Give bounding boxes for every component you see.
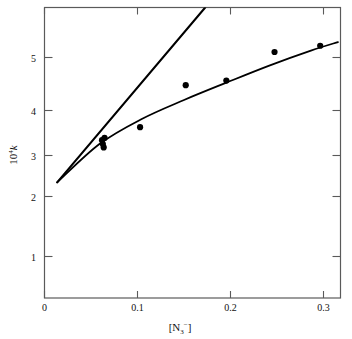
chart-canvas: 0 0.1 0.2 0.3 1 2 3 4 5 104k [N3−]	[0, 0, 352, 339]
data-point	[101, 135, 107, 141]
data-point	[101, 144, 107, 150]
y-axis-title-base: 10	[7, 153, 19, 165]
figure-container: 0 0.1 0.2 0.3 1 2 3 4 5 104k [N3−]	[0, 0, 352, 339]
x-tick-label: 0	[42, 302, 47, 313]
data-point	[271, 49, 277, 55]
y-tick-label: 5	[31, 53, 36, 64]
data-point	[223, 77, 229, 83]
chart-background	[0, 0, 352, 339]
y-tick-label: 4	[31, 106, 36, 117]
data-point	[317, 43, 323, 49]
y-tick-label: 2	[31, 192, 36, 203]
y-tick-label: 3	[31, 151, 36, 162]
x-axis-title-open: [N	[169, 321, 181, 333]
data-point	[137, 124, 143, 130]
x-axis-title-subscript: 3	[180, 328, 184, 336]
svg-text:104k: 104k	[7, 144, 19, 165]
x-tick-label: 0.3	[317, 302, 330, 313]
y-tick-label: 1	[31, 252, 36, 263]
x-tick-label: 0.1	[131, 302, 144, 313]
data-point	[183, 82, 189, 88]
x-axis-title-close: ]	[188, 321, 192, 333]
y-axis-title: 104k	[7, 144, 19, 165]
x-tick-label: 0.2	[224, 302, 237, 313]
